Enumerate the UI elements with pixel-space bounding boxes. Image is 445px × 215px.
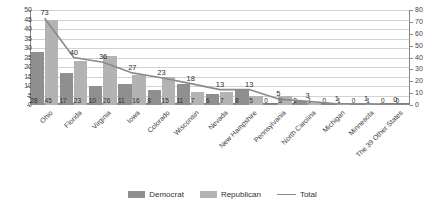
legend-label-democrat: Democrat bbox=[149, 190, 184, 199]
total-value-label: 5 bbox=[276, 90, 280, 98]
legend-swatch-republican bbox=[200, 191, 217, 198]
y-tick-mark-right bbox=[410, 81, 413, 82]
total-line-layer bbox=[30, 10, 410, 105]
chart-container: 05101520253035404550 01020304050607080 2… bbox=[0, 0, 445, 215]
total-value-label: 23 bbox=[157, 69, 165, 77]
x-tick-label: Minnesota bbox=[347, 109, 375, 137]
total-value-label: 1 bbox=[335, 95, 339, 103]
legend-swatch-total bbox=[277, 194, 296, 195]
y-tick-label-right: 0 bbox=[415, 101, 439, 108]
legend-item-total: Total bbox=[277, 190, 317, 199]
legend-swatch-democrat bbox=[128, 191, 145, 198]
total-value-label: 13 bbox=[216, 81, 224, 89]
y-tick-mark-right bbox=[410, 10, 413, 11]
y-tick-label-right: 50 bbox=[415, 42, 439, 49]
y-tick-mark-right bbox=[410, 69, 413, 70]
total-value-label: 0 bbox=[393, 96, 397, 104]
total-line bbox=[30, 10, 410, 105]
x-tick-label: Michigan bbox=[321, 109, 346, 134]
total-value-label: 73 bbox=[40, 9, 48, 17]
total-value-label: 3 bbox=[306, 92, 310, 100]
y-tick-mark-right bbox=[410, 93, 413, 94]
x-tick-label: Florida bbox=[63, 109, 84, 130]
y-tick-label-right: 20 bbox=[415, 77, 439, 84]
x-tick-label: Virginia bbox=[91, 109, 113, 131]
total-value-label: 18 bbox=[187, 75, 195, 83]
y-tick-mark-right bbox=[410, 46, 413, 47]
total-value-label: 40 bbox=[70, 49, 78, 57]
legend-label-total: Total bbox=[300, 190, 317, 199]
y-tick-label-right: 40 bbox=[415, 54, 439, 61]
chart-legend: Democrat Republican Total bbox=[0, 190, 445, 199]
y-tick-mark-left bbox=[27, 105, 30, 106]
x-axis-category-labels: OhioFloridaVirginiaIowaColoradoWisconsin… bbox=[30, 107, 410, 167]
y-tick-mark-right bbox=[410, 34, 413, 35]
total-value-label: 13 bbox=[245, 81, 253, 89]
x-tick-label: Ohio bbox=[38, 109, 54, 125]
legend-item-democrat: Democrat bbox=[128, 190, 184, 199]
total-value-label: 36 bbox=[99, 53, 107, 61]
y-tick-mark-right bbox=[410, 105, 413, 106]
y-tick-label-right: 80 bbox=[415, 6, 439, 13]
total-value-label: 1 bbox=[364, 95, 368, 103]
y-tick-label-right: 70 bbox=[415, 18, 439, 25]
x-tick-label: Wisconsin bbox=[172, 109, 200, 137]
legend-item-republican: Republican bbox=[200, 190, 261, 199]
legend-label-republican: Republican bbox=[221, 190, 261, 199]
x-tick-label: Colorado bbox=[145, 109, 171, 135]
x-tick-label: Iowa bbox=[126, 109, 142, 125]
x-tick-label: Nevada bbox=[207, 109, 230, 132]
y-tick-mark-right bbox=[410, 22, 413, 23]
y-tick-label-right: 10 bbox=[415, 89, 439, 96]
y-tick-label-right: 30 bbox=[415, 65, 439, 72]
total-value-label: 27 bbox=[128, 64, 136, 72]
y-tick-mark-right bbox=[410, 58, 413, 59]
y-tick-label-right: 60 bbox=[415, 30, 439, 37]
